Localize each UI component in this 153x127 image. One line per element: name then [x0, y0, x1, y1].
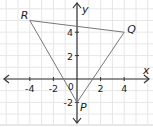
origin-label: 0 — [68, 82, 74, 92]
y-axis-label: y — [81, 3, 89, 16]
x-tick-label: 4 — [121, 83, 127, 94]
vertex-label-p: P — [80, 101, 87, 114]
vertex-label-q: Q — [127, 23, 136, 36]
x-tick-label: -2 — [49, 83, 58, 94]
y-tick-label: 2 — [67, 51, 73, 62]
y-tick-label: 4 — [67, 27, 73, 38]
vertex-label-r: R — [21, 9, 29, 22]
vertex-labels: RQP — [21, 9, 136, 115]
x-tick-label: 2 — [98, 83, 104, 94]
y-tick-label: -2 — [64, 97, 73, 108]
x-tick-label: -4 — [25, 83, 34, 94]
x-axis-label: x — [142, 64, 150, 77]
coordinate-plane: -4-22442-2 RQP x y 0 — [0, 0, 153, 127]
